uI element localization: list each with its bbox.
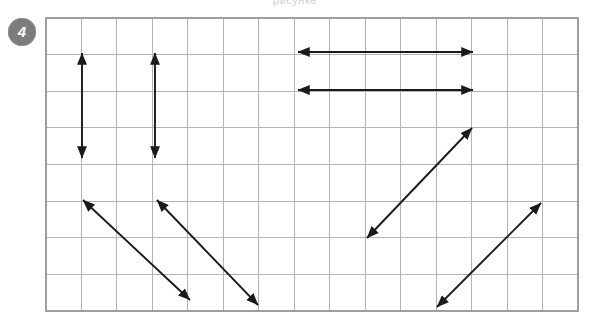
grid-arrow-figure [0, 0, 590, 322]
diagonal-arrow-down-right-second [157, 200, 258, 305]
grid-lines [46, 18, 578, 311]
diagonal-arrow-up-right-middle [367, 128, 472, 238]
worksheet-page: рисунке 4 [0, 0, 590, 322]
arrow-collection [82, 52, 541, 307]
diagonal-arrow-down-right-first [83, 200, 190, 300]
diagonal-arrow-up-right-far [437, 203, 541, 307]
